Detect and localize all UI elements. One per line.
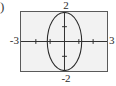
plot-frame [20,11,108,72]
axis-label-x-min: -3 [1,35,19,46]
axis-label-y-min: -2 [56,73,76,84]
axis-label-x-max: 3 [109,35,116,46]
item-label-paren: ) [0,0,10,15]
plot-canvas [21,12,107,71]
graph-figure: ) 2 -2 -3 3 [0,0,116,86]
axis-label-y-max: 2 [58,0,74,11]
